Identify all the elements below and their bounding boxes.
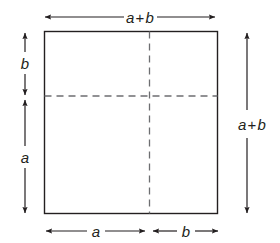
- top-dimension-label-operator: +: [135, 9, 146, 26]
- bottom-right-dimension-label: b: [182, 224, 191, 239]
- right-dimension-label-trail: b: [257, 116, 266, 133]
- right-dimension-label-operator: +: [247, 116, 258, 133]
- left-upper-dimension-label: b: [21, 56, 30, 71]
- left-lower-dimension-label: a: [21, 150, 30, 165]
- top-dimension-label: a+b: [126, 10, 154, 25]
- top-dimension-label-trail: b: [145, 9, 154, 26]
- geometry-diagram: a+b a+b b a a b: [0, 0, 280, 243]
- outer-square: [45, 32, 218, 214]
- top-dimension-label-lead: a: [126, 9, 135, 26]
- right-dimension-label-lead: a: [238, 116, 247, 133]
- right-dimension-label: a+b: [238, 117, 266, 132]
- bottom-left-dimension-label: a: [92, 224, 101, 239]
